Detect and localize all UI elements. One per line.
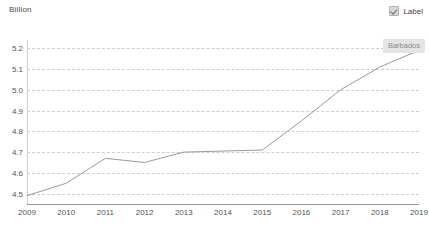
y-tick-label: 4.6 [12,168,23,177]
grid-line [27,90,419,91]
grid-line [27,152,419,153]
legend-label: Label [403,7,423,16]
grid-line [27,194,419,195]
y-tick-label: 5.1 [12,65,23,74]
x-tick-label: 2013 [175,208,193,217]
x-tick-label: 2012 [136,208,154,217]
y-tick-label: 4.8 [12,127,23,136]
y-tick-label: 4.7 [12,148,23,157]
data-point-tooltip: Barbados [383,39,425,53]
x-tick-label: 2018 [371,208,389,217]
grid-line [27,173,419,174]
x-tick-label: 2019 [410,208,428,217]
x-tick-label: 2017 [332,208,350,217]
y-tick-label: 4.5 [12,189,23,198]
x-tick-label: 2016 [292,208,310,217]
grid-line [27,48,419,49]
y-axis-tick-labels: 5.25.15.04.94.84.74.64.5 [0,0,23,228]
x-tick-label: 2010 [57,208,75,217]
x-tick-label: 2015 [253,208,271,217]
grid-line [27,69,419,70]
legend-checkbox-icon[interactable] [389,6,399,16]
x-axis-line [27,204,419,205]
y-tick-label: 4.9 [12,106,23,115]
x-tick-label: 2009 [18,208,36,217]
grid-line [27,111,419,112]
y-tick-label: 5.0 [12,85,23,94]
x-tick-label: 2014 [214,208,232,217]
x-tick-label: 2011 [97,208,114,217]
y-axis-line [27,40,28,204]
plot-area [27,40,419,204]
chart-legend[interactable]: Label [389,6,423,16]
line-chart: Billion Label 5.25.15.04.94.84.74.64.5 2… [0,0,429,228]
grid-line [27,131,419,132]
y-tick-label: 5.2 [12,44,23,53]
